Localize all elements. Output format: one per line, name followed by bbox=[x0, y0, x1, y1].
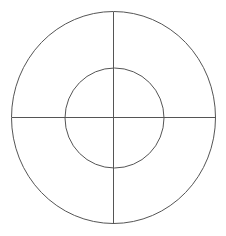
diagram-canvas bbox=[0, 0, 226, 236]
concentric-circles-figure bbox=[0, 0, 226, 236]
